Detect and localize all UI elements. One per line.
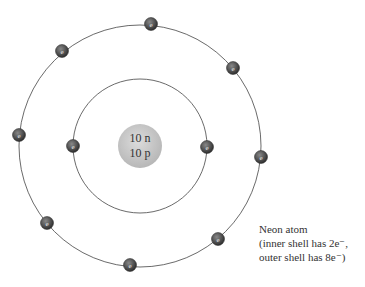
electron-inner: e	[201, 141, 214, 154]
electron-outer: e	[145, 18, 158, 31]
electron-outer: e	[41, 217, 54, 230]
caption: Neon atom (inner shell has 2e⁻, outer sh…	[259, 222, 348, 264]
caption-title: Neon atom	[259, 222, 348, 236]
electron-label: e	[45, 220, 48, 228]
electron-outer: e	[212, 233, 225, 246]
electron-label: e	[205, 144, 208, 152]
neutron-count-label: 10 n	[130, 131, 151, 145]
caption-outer-shell: outer shell has 8e⁻)	[259, 250, 348, 264]
electron-outer: e	[255, 151, 268, 164]
proton-count-label: 10 p	[130, 146, 151, 160]
electron-label: e	[60, 48, 63, 56]
electron-outer: e	[13, 129, 26, 142]
electron-label: e	[71, 143, 74, 151]
electron-label: e	[259, 154, 262, 162]
electron-outer: e	[227, 62, 240, 75]
electron-label: e	[17, 132, 20, 140]
electron-label: e	[128, 262, 131, 270]
electron-outer: e	[124, 259, 137, 272]
nucleus: 10 n 10 p	[118, 124, 162, 168]
electron-outer: e	[56, 45, 69, 58]
electron-inner: e	[67, 140, 80, 153]
electron-label: e	[216, 236, 219, 244]
caption-inner-shell: (inner shell has 2e⁻,	[259, 236, 348, 250]
electron-label: e	[149, 21, 152, 29]
electron-label: e	[231, 65, 234, 73]
